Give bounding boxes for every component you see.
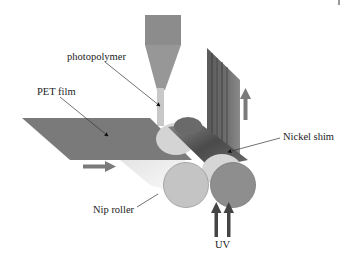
r2r-uv-imprint-diagram: photopolymer PET film Nip roller Nickel …	[0, 0, 348, 259]
label-uv: UV	[215, 239, 231, 250]
label-nickel-shim: Nickel shim	[283, 131, 334, 142]
photopolymer-hopper	[145, 15, 181, 126]
shim-direction-arrow-icon	[240, 88, 251, 120]
imprint-roller	[211, 163, 256, 208]
label-nip-roller: Nip roller	[93, 204, 135, 215]
nip-roller-leader	[137, 194, 158, 207]
uv-arrows-icon	[211, 202, 234, 237]
label-pet-film: PET film	[37, 86, 76, 97]
film-direction-arrow-icon	[83, 161, 116, 172]
label-photopolymer: photopolymer	[67, 51, 126, 62]
nip-roller	[164, 163, 209, 208]
